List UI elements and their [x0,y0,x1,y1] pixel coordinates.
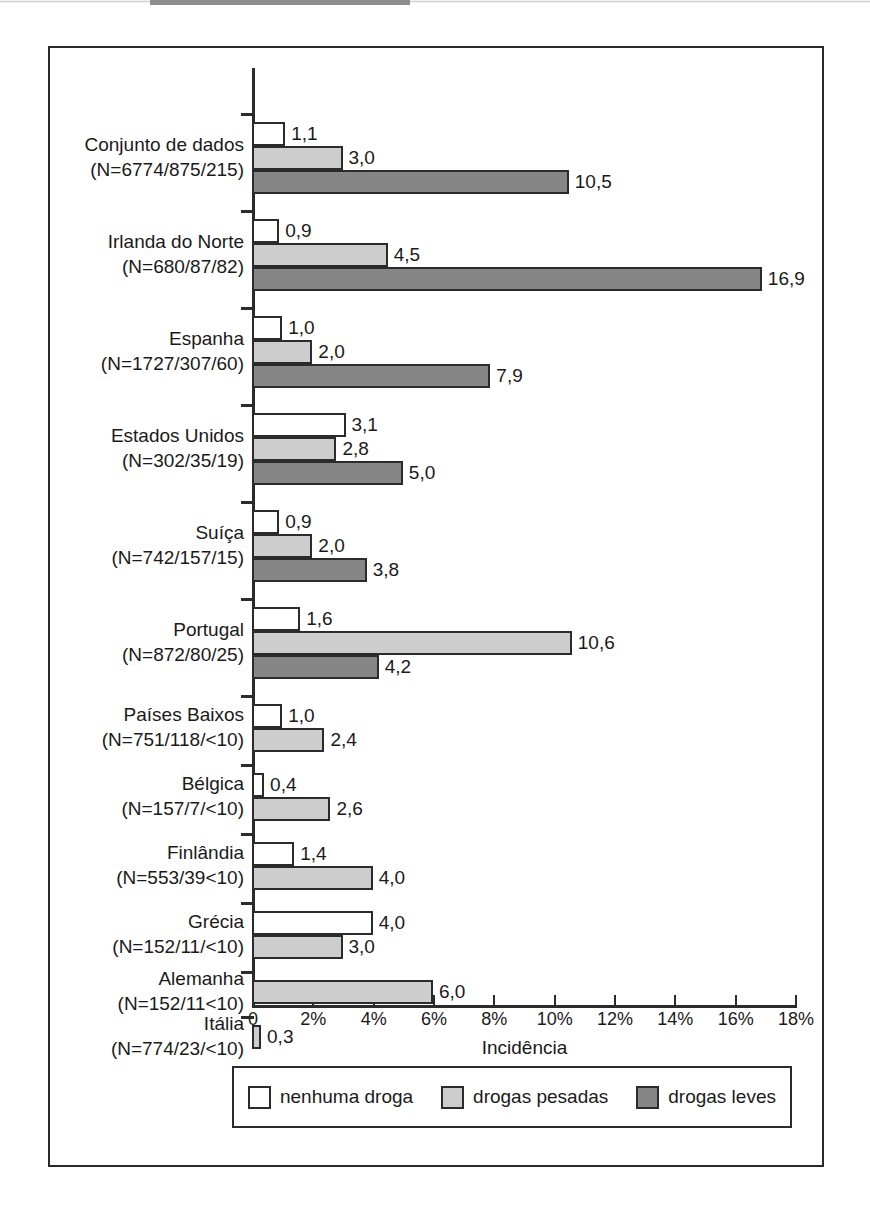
legend-swatch-hard-drugs [441,1086,464,1109]
bar-value-label: 1,0 [288,317,314,339]
category-axis-tick [241,501,254,504]
category-label-sample-size: (N=1727/307/60) [101,351,244,376]
x-axis-tick [493,995,495,1006]
bar-drogas-leves-espanha [252,364,490,388]
bar-nenhuma-droga-estados-unidos [252,413,346,437]
bar-drogas-leves-conjunto-de-dados [252,170,569,194]
category-label-sample-size: (N=742/157/15) [111,545,244,570]
category-label: Conjunto de dados(N=6774/875/215) [84,132,244,182]
bar-drogas-pesadas-bélgica [252,797,330,821]
category-label: Grécia(N=152/11/<10) [112,909,244,959]
category-axis-tick [241,210,254,213]
category-axis-tick [241,695,254,698]
bar-drogas-pesadas-países-baixos [252,728,324,752]
bar-value-label: 3,0 [349,936,375,958]
legend-swatch-no-drug [248,1086,271,1109]
x-axis-tick-label: 18% [778,1009,814,1030]
bar-drogas-leves-irlanda-do-norte [252,267,762,291]
bar-value-label: 4,5 [394,244,420,266]
legend-item-no-drug[interactable]: nenhuma droga [248,1086,413,1109]
x-axis-tick-label: 14% [657,1009,693,1030]
category-label: Bélgica(N=157/7/<10) [121,771,244,821]
bar-value-label: 10,5 [575,171,612,193]
bar-value-label: 10,6 [578,632,615,654]
x-axis-tick-label: 12% [597,1009,633,1030]
category-label-name: Itália [204,1013,244,1034]
category-label: Portugal(N=872/80/25) [122,617,244,667]
category-axis-tick [241,307,254,310]
bar-value-label: 5,0 [409,462,435,484]
category-label-sample-size: (N=553/39<10) [116,865,244,890]
category-label: Finlândia(N=553/39<10) [116,840,244,890]
bar-nenhuma-droga-países-baixos [252,704,282,728]
category-label-name: Grécia [188,911,244,932]
bar-value-label: 6,0 [439,981,465,1003]
category-axis-tick [241,764,254,767]
category-label: Irlanda do Norte(N=680/87/82) [108,229,244,279]
bar-nenhuma-droga-espanha [252,316,282,340]
bar-value-label: 2,8 [342,438,368,460]
bar-drogas-pesadas-portugal [252,631,572,655]
x-axis-tick [554,995,556,1006]
category-axis-tick [241,902,254,905]
x-axis-tick [735,995,737,1006]
x-axis-tick-label: 2% [300,1009,326,1030]
bar-nenhuma-droga-bélgica [252,773,264,797]
scan-header-smudge [150,0,410,5]
category-label: Suíça(N=742/157/15) [111,520,244,570]
category-label-sample-size: (N=680/87/82) [108,254,244,279]
category-axis-tick [241,598,254,601]
bar-drogas-pesadas-finlândia [252,866,373,890]
bar-drogas-leves-estados-unidos [252,461,403,485]
bar-nenhuma-droga-irlanda-do-norte [252,219,279,243]
legend-label: nenhuma droga [280,1086,413,1108]
bar-value-label: 2,0 [318,535,344,557]
bar-drogas-pesadas-suíça [252,534,312,558]
x-axis-tick [614,995,616,1006]
bar-value-label: 3,1 [352,414,378,436]
bar-value-label: 7,9 [496,365,522,387]
category-label-name: Espanha [169,328,244,349]
bar-nenhuma-droga-suíça [252,510,279,534]
bar-value-label: 3,8 [373,559,399,581]
category-label-name: Estados Unidos [111,425,244,446]
bar-value-label: 2,0 [318,341,344,363]
figure-frame: 02%4%6%8%10%12%14%16%18%Conjunto de dado… [48,46,824,1167]
legend-item-hard-drugs[interactable]: drogas pesadas [441,1086,608,1109]
category-label: Espanha(N=1727/307/60) [101,326,244,376]
bar-value-label: 0,4 [270,774,296,796]
bar-value-label: 0,9 [285,511,311,533]
legend-label: drogas pesadas [473,1086,608,1108]
x-axis-tick [674,995,676,1006]
category-label: Estados Unidos(N=302/35/19) [111,423,244,473]
bar-value-label: 0,9 [285,220,311,242]
bar-drogas-pesadas-irlanda-do-norte [252,243,388,267]
bar-nenhuma-droga-portugal [252,607,300,631]
category-axis-tick [241,404,254,407]
bar-value-label: 1,6 [306,608,332,630]
bar-value-label: 4,0 [379,867,405,889]
bar-drogas-pesadas-estados-unidos [252,437,336,461]
x-axis-tick-label: 8% [481,1009,507,1030]
legend-item-light-drugs[interactable]: drogas leves [636,1086,776,1109]
category-label-name: Suíça [195,522,244,543]
plot-area: 02%4%6%8%10%12%14%16%18%Conjunto de dado… [50,48,822,1008]
bar-drogas-pesadas-grécia [252,935,343,959]
category-label-sample-size: (N=152/11/<10) [112,934,244,959]
category-label-sample-size: (N=6774/875/215) [84,157,244,182]
category-label-name: Irlanda do Norte [108,231,244,252]
x-axis-tick-label: 16% [718,1009,754,1030]
scan-edge-artifact [0,0,870,3]
category-label: Alemanha(N=152/11<10) [118,966,244,1016]
category-label-sample-size: (N=302/35/19) [111,448,244,473]
value-axis-horizontal-line [252,1005,797,1008]
bar-value-label: 4,2 [385,656,411,678]
category-label-name: Finlândia [167,842,244,863]
bar-value-label: 2,6 [336,798,362,820]
x-axis-tick-label: 10% [537,1009,573,1030]
bar-value-label: 1,1 [291,123,317,145]
bar-value-label: 4,0 [379,912,405,934]
bar-value-label: 1,0 [288,705,314,727]
bar-value-label: 3,0 [349,147,375,169]
x-axis-title: Incidência [252,1037,797,1059]
